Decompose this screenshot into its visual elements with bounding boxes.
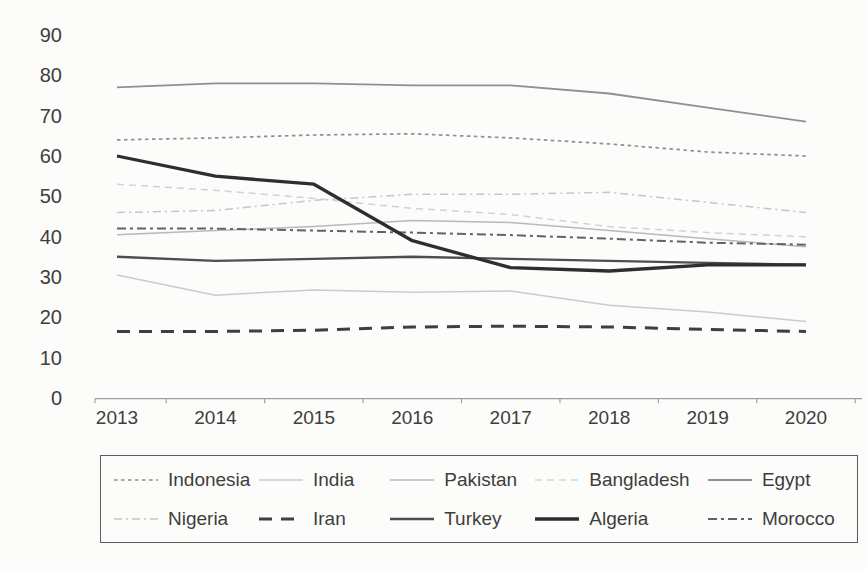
scanned-line-chart-page: 0102030405060708090201320142015201620172… xyxy=(0,0,867,571)
legend-line-sample-light-solid xyxy=(258,475,304,485)
x-axis-tick-label: 2015 xyxy=(293,407,335,428)
legend-line-sample-bold-dashed xyxy=(258,514,304,524)
legend-row: NigeriaIranTurkeyAlgeriaMorocco xyxy=(113,509,845,528)
y-axis-tick-label: 0 xyxy=(51,387,62,409)
legend-item-pakistan: Pakistan xyxy=(389,470,534,489)
legend-line-sample-dash-dot-dot xyxy=(707,514,753,524)
y-axis-tick-label: 10 xyxy=(40,347,62,369)
legend-item-morocco: Morocco xyxy=(707,509,845,528)
series-line-nigeria xyxy=(117,192,806,212)
legend-label: Egypt xyxy=(762,470,811,489)
legend-line-sample-light-dash-dot xyxy=(113,514,159,524)
legend-line-sample-bold-solid xyxy=(534,514,580,524)
legend-item-nigeria: Nigeria xyxy=(113,509,258,528)
x-axis-tick-label: 2019 xyxy=(686,407,728,428)
legend-row: IndonesiaIndiaPakistanBangladeshEgypt xyxy=(113,470,845,489)
legend-label: Pakistan xyxy=(444,470,517,489)
legend-line-sample-light-solid xyxy=(389,475,435,485)
y-axis-tick-label: 90 xyxy=(40,24,62,46)
series-line-iran xyxy=(117,326,806,331)
chart-legend: IndonesiaIndiaPakistanBangladeshEgyptNig… xyxy=(100,455,858,543)
legend-line-sample-solid xyxy=(707,475,753,485)
legend-item-bangladesh: Bangladesh xyxy=(534,470,707,489)
legend-item-algeria: Algeria xyxy=(534,509,707,528)
x-axis-tick-label: 2014 xyxy=(194,407,237,428)
x-axis-tick-label: 2013 xyxy=(96,407,138,428)
y-axis-tick-label: 30 xyxy=(40,266,62,288)
x-axis-tick-label: 2016 xyxy=(391,407,433,428)
x-axis-tick-label: 2017 xyxy=(490,407,532,428)
series-line-india xyxy=(117,275,806,321)
series-line-egypt xyxy=(117,83,806,121)
legend-label: Bangladesh xyxy=(589,470,689,489)
legend-item-iran: Iran xyxy=(258,509,389,528)
legend-line-sample-dotted xyxy=(113,475,159,485)
y-axis-tick-label: 60 xyxy=(40,145,62,167)
legend-line-sample-light-dashed xyxy=(534,475,580,485)
legend-item-indonesia: Indonesia xyxy=(113,470,258,489)
y-axis-tick-label: 20 xyxy=(40,306,62,328)
legend-label: Indonesia xyxy=(168,470,250,489)
x-axis-tick-label: 2020 xyxy=(785,407,827,428)
series-line-algeria xyxy=(117,156,806,271)
y-axis-tick-label: 50 xyxy=(40,185,62,207)
legend-label: Morocco xyxy=(762,509,835,528)
legend-label: India xyxy=(313,470,354,489)
legend-item-egypt: Egypt xyxy=(707,470,845,489)
x-axis-tick-label: 2018 xyxy=(588,407,630,428)
legend-item-india: India xyxy=(258,470,389,489)
legend-label: Iran xyxy=(313,509,346,528)
line-chart-canvas: 0102030405060708090201320142015201620172… xyxy=(0,0,867,455)
series-line-indonesia xyxy=(117,134,806,156)
y-axis-tick-label: 40 xyxy=(40,226,62,248)
legend-label: Turkey xyxy=(444,509,501,528)
legend-label: Algeria xyxy=(589,509,648,528)
legend-line-sample-dark-solid xyxy=(389,514,435,524)
y-axis-tick-label: 80 xyxy=(40,64,62,86)
y-axis-tick-label: 70 xyxy=(40,105,62,127)
legend-label: Nigeria xyxy=(168,509,228,528)
legend-item-turkey: Turkey xyxy=(389,509,534,528)
